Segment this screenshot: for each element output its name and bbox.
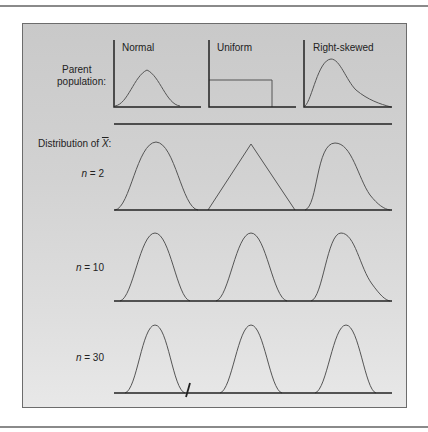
n2-skewed-curve: [305, 143, 390, 210]
n30-normal-curve: [125, 325, 185, 393]
parent-skewed-curve: [305, 59, 391, 107]
distribution-label-prefix: Distribution of: [38, 138, 102, 149]
n10-uniform-curve: [216, 233, 287, 301]
n-value: = 30: [81, 352, 104, 363]
n10-skewed-curve: [311, 233, 390, 301]
n30-uniform-curve: [220, 325, 282, 393]
distribution-label-suffix: :: [109, 138, 112, 149]
n2-uniform-triangle: [208, 144, 295, 210]
parent-normal-curve: [115, 70, 180, 106]
pencil-mark: [186, 383, 190, 397]
parent-population-label: Parent population:: [40, 64, 106, 88]
n10-normal-curve: [120, 233, 190, 301]
n2-normal-curve: [115, 142, 198, 210]
distribution-of-xbar-label: Distribution of X:: [38, 138, 111, 150]
parent-label-line1: Parent: [40, 64, 106, 76]
row-label-n10: n = 10: [60, 262, 104, 274]
parent-uniform-rect: [209, 80, 272, 107]
column-label-normal: Normal: [122, 42, 154, 54]
row-label-n2: n = 2: [60, 168, 104, 180]
column-label-uniform: Uniform: [217, 42, 252, 54]
column-label-right-skewed: Right-skewed: [313, 42, 374, 54]
n-value: = 2: [87, 168, 104, 179]
xbar-symbol: X: [102, 138, 109, 149]
parent-label-line2: population:: [40, 76, 106, 88]
bottom-rule: [0, 426, 428, 428]
row-label-n30: n = 30: [60, 352, 104, 364]
n-value: = 10: [81, 262, 104, 273]
n30-skewed-curve: [315, 325, 376, 393]
